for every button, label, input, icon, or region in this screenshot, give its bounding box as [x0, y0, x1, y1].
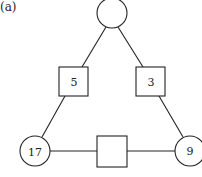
edge-top-left: [82, 27, 106, 67]
edge-top-right: [118, 27, 143, 67]
edge-left-bottom: [42, 96, 65, 137]
node-value-right-square: 3: [148, 76, 155, 89]
edge-right-bottom: [159, 96, 183, 137]
node-value-right-circle: 9: [187, 145, 194, 158]
node-square-bottom: [97, 136, 127, 167]
node-value-left-square: 5: [71, 76, 78, 89]
node-circle-top: [97, 0, 127, 28]
node-value-left-circle: 17: [28, 146, 42, 159]
triangle-diagram: 17 9 5 3: [0, 0, 202, 177]
